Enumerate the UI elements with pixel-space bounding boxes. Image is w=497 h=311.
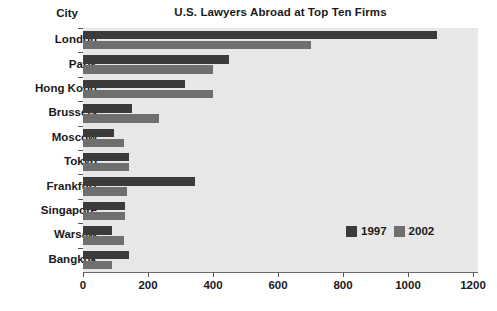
value-tick-label-1200: 1200 bbox=[460, 279, 486, 291]
bar-chart: City U.S. Lawyers Abroad at Top Ten Firm… bbox=[0, 0, 497, 311]
bar-row: Hong Kong bbox=[0, 77, 497, 101]
value-tick-label-200: 200 bbox=[138, 279, 157, 291]
category-tick bbox=[78, 77, 83, 78]
bar-paris-2002 bbox=[83, 65, 213, 74]
bar-brussels-1997 bbox=[83, 104, 132, 113]
bar-row: Moscow bbox=[0, 126, 497, 150]
chart-title: U.S. Lawyers Abroad at Top Ten Firms bbox=[83, 6, 478, 18]
bar-bangkok-1997 bbox=[83, 251, 129, 260]
category-tick bbox=[78, 52, 83, 53]
bar-row: Frankfurt bbox=[0, 174, 497, 198]
value-tick-label-1000: 1000 bbox=[395, 279, 421, 291]
legend-label-1997: 1997 bbox=[361, 226, 387, 237]
category-tick bbox=[78, 199, 83, 200]
category-tick bbox=[78, 248, 83, 249]
value-tick bbox=[148, 272, 149, 277]
value-tick bbox=[408, 272, 409, 277]
value-tick bbox=[83, 272, 84, 277]
bar-singapore-2002 bbox=[83, 212, 125, 221]
bar-brussels-2002 bbox=[83, 114, 159, 123]
bar-moscow-2002 bbox=[83, 139, 124, 148]
bar-row: Tokyo bbox=[0, 150, 497, 174]
bar-hong-kong-1997 bbox=[83, 80, 185, 89]
value-tick-label-800: 800 bbox=[333, 279, 352, 291]
category-tick bbox=[78, 101, 83, 102]
bar-row: Paris bbox=[0, 52, 497, 76]
bar-tokyo-2002 bbox=[83, 163, 129, 172]
category-tick bbox=[78, 150, 83, 151]
bar-bangkok-2002 bbox=[83, 261, 112, 270]
bar-frankfurt-2002 bbox=[83, 187, 127, 196]
bar-paris-1997 bbox=[83, 55, 229, 64]
bar-frankfurt-1997 bbox=[83, 177, 195, 186]
bar-london-2002 bbox=[83, 41, 311, 50]
bar-singapore-1997 bbox=[83, 202, 125, 211]
category-tick bbox=[78, 174, 83, 175]
bar-row: Singapore bbox=[0, 199, 497, 223]
value-axis-line bbox=[83, 272, 478, 273]
legend-entry-2002[interactable]: 2002 bbox=[394, 226, 435, 237]
legend-entry-1997[interactable]: 1997 bbox=[346, 226, 387, 237]
bar-row: Bangkok bbox=[0, 248, 497, 272]
bar-london-1997 bbox=[83, 31, 437, 40]
bar-hong-kong-2002 bbox=[83, 90, 213, 99]
bar-warsaw-2002 bbox=[83, 236, 124, 245]
value-tick-label-600: 600 bbox=[268, 279, 287, 291]
category-tick bbox=[78, 126, 83, 127]
legend-label-2002: 2002 bbox=[409, 226, 435, 237]
value-tick bbox=[343, 272, 344, 277]
legend-swatch-1997 bbox=[346, 226, 357, 237]
bar-moscow-1997 bbox=[83, 129, 114, 138]
value-tick bbox=[473, 272, 474, 277]
bar-row: Brussels bbox=[0, 101, 497, 125]
value-tick-label-400: 400 bbox=[203, 279, 222, 291]
legend: 19972002 bbox=[346, 226, 434, 237]
value-tick bbox=[278, 272, 279, 277]
category-axis-title: City bbox=[0, 7, 78, 19]
legend-swatch-2002 bbox=[394, 226, 405, 237]
category-tick bbox=[78, 28, 83, 29]
bar-warsaw-1997 bbox=[83, 226, 112, 235]
value-tick bbox=[213, 272, 214, 277]
value-tick-label-0: 0 bbox=[80, 279, 86, 291]
bar-row: London bbox=[0, 28, 497, 52]
category-tick bbox=[78, 223, 83, 224]
bar-tokyo-1997 bbox=[83, 153, 129, 162]
